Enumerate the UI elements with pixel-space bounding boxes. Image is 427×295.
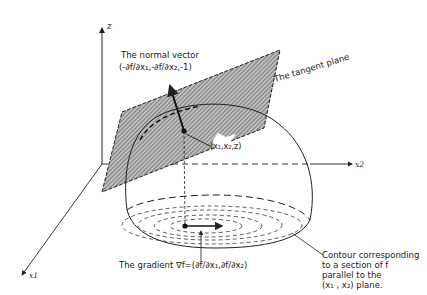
gradient-arrow: [182, 223, 222, 262]
x2-axis-label: x2: [355, 159, 364, 170]
diagram-canvas: z x1 x2 The normal vector (-∂f/∂x₁,-∂f/∂…: [0, 0, 427, 295]
contour-label-line4: (x₁ , x₂) plane.: [322, 280, 383, 291]
x1-axis: [22, 164, 102, 275]
contour-leader: [292, 233, 323, 255]
normal-vector-title: The normal vector: [121, 50, 199, 61]
gradient-label: The gradient ∇f=(∂f/∂x₁,∂f/∂x₂): [119, 260, 247, 271]
x1-axis-label: x1: [29, 270, 38, 281]
contour-ellipses: [122, 206, 302, 244]
normal-vector-formula: (-∂f/∂x₁,-∂f/∂x₂,-1): [119, 62, 192, 73]
point-label: (x₁,x₂,z): [210, 141, 241, 152]
z-axis-label: z: [107, 21, 111, 32]
surface-point: [181, 128, 186, 133]
